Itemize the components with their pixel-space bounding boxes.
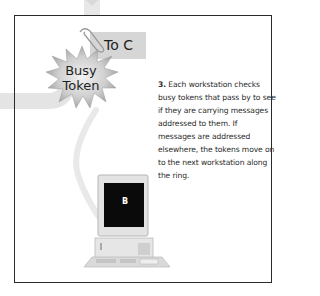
- workstation-label: B: [118, 197, 132, 206]
- step-number: 3.: [158, 80, 166, 89]
- step-description: 3. Each workstation checks busy tokens t…: [158, 78, 276, 182]
- workstation-computer-icon: [78, 172, 174, 272]
- step-text: Each workstation checks busy tokens that…: [158, 80, 276, 180]
- busy-token-label: Busy Token: [56, 63, 106, 93]
